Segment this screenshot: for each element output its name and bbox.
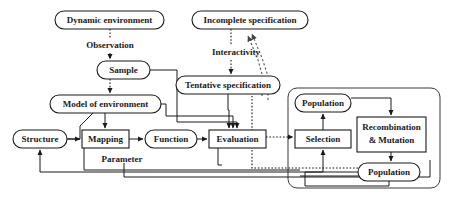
node-recombination-mutation-line1: Recombination: [362, 122, 421, 132]
edge-population-top-to-recombination: [351, 98, 391, 115]
edge-evaluation-bottom-rail: [218, 148, 222, 165]
observation-label: Observation: [86, 40, 134, 50]
node-mapping-label: Mapping: [88, 134, 124, 144]
node-function-label: Function: [154, 134, 189, 144]
node-sample-label: Sample: [109, 65, 138, 75]
diagram-svg: Dynamic environment Incomplete specifica…: [0, 0, 450, 204]
node-dynamic-environment[interactable]: Dynamic environment: [55, 11, 164, 29]
node-recombination-mutation-line2: & Mutation: [369, 135, 415, 145]
edge-model-to-evaluation: [161, 104, 233, 128]
node-evaluation[interactable]: Evaluation: [209, 130, 266, 148]
node-structure-label: Structure: [22, 134, 59, 144]
node-incomplete-specification[interactable]: Incomplete specification: [192, 11, 308, 29]
node-evaluation-label: Evaluation: [216, 134, 258, 144]
node-model-of-environment[interactable]: Model of environment: [50, 95, 161, 113]
edge-tentative-spec-to-evaluation: [228, 94, 229, 128]
node-population-bottom-label: Population: [368, 167, 410, 177]
node-recombination-mutation[interactable]: Recombination & Mutation: [357, 117, 426, 152]
edge-label-observation: Observation: [86, 40, 134, 50]
node-function[interactable]: Function: [145, 130, 197, 148]
interactivity-label: Interactivity: [212, 47, 260, 57]
node-sample[interactable]: Sample: [97, 61, 150, 79]
node-population-top[interactable]: Population: [295, 94, 351, 112]
node-selection-label: Selection: [306, 134, 341, 144]
node-tentative-specification-label: Tentative specification: [185, 80, 271, 90]
node-structure[interactable]: Structure: [13, 130, 67, 148]
node-incomplete-specification-label: Incomplete specification: [203, 15, 296, 25]
node-tentative-specification[interactable]: Tentative specification: [176, 76, 280, 94]
node-mapping[interactable]: Mapping: [82, 130, 129, 148]
edge-label-interactivity: Interactivity: [212, 47, 260, 57]
node-selection[interactable]: Selection: [295, 130, 351, 148]
edge-label-parameter: Parameter: [102, 154, 143, 164]
parameter-label: Parameter: [102, 154, 143, 164]
node-model-of-environment-label: Model of environment: [63, 99, 148, 109]
node-population-top-label: Population: [302, 98, 344, 108]
diagram-canvas: Dynamic environment Incomplete specifica…: [0, 0, 450, 204]
node-population-bottom[interactable]: Population: [358, 163, 420, 181]
node-dynamic-environment-label: Dynamic environment: [67, 15, 153, 25]
